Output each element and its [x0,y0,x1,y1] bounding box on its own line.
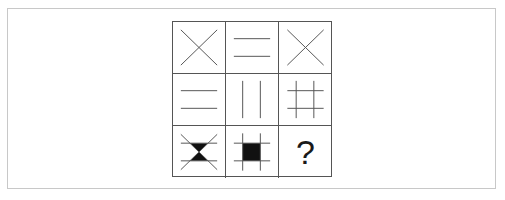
cell-r1-c1 [173,22,226,74]
x-cross-icon [279,22,332,73]
cell-r1-c3 [279,22,332,74]
cell-r2-c2 [226,74,279,126]
two-horizontal-lines-icon [226,22,278,73]
cell-r1-c2 [226,22,279,74]
puzzle-frame: ? [7,8,496,189]
hash-grid-filled-center-icon [226,126,278,178]
hash-grid-icon [279,74,332,125]
two-vertical-lines-icon [226,74,278,125]
cell-r3-c3: ? [279,126,332,178]
two-horizontal-lines-icon [173,74,225,125]
cell-r2-c3 [279,74,332,126]
cell-r3-c1 [173,126,226,178]
cell-r2-c1 [173,74,226,126]
hourglass-icon [173,126,225,178]
cell-r3-c2 [226,126,279,178]
x-cross-icon [173,22,225,73]
figure-matrix: ? [172,21,332,177]
question-mark: ? [279,126,332,178]
